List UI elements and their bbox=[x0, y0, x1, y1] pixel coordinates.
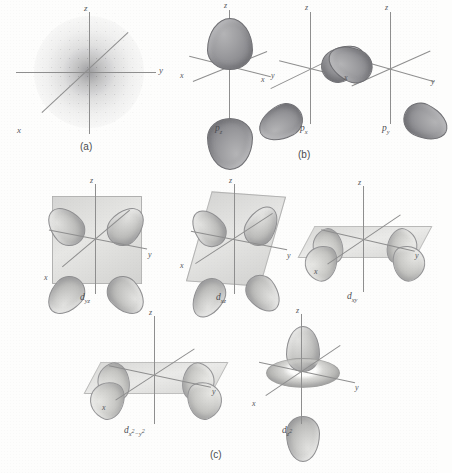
axis-label-x: x bbox=[102, 404, 106, 412]
axis-label-y: y bbox=[431, 78, 435, 86]
axis-label-y: y bbox=[287, 252, 291, 260]
axis-label-z: z bbox=[358, 179, 361, 187]
axis-label-x: x bbox=[180, 72, 184, 80]
axis-line-z bbox=[154, 316, 155, 424]
orbital-label-dxz: dxz bbox=[216, 293, 226, 304]
axis-label-y: y bbox=[355, 384, 359, 392]
axis-label-x: x bbox=[252, 400, 256, 408]
axis-label-z: z bbox=[90, 177, 93, 185]
axis-label-z: z bbox=[229, 177, 232, 185]
panel-label-c: (c) bbox=[210, 450, 222, 460]
panel-label-b: (b) bbox=[298, 150, 310, 160]
dz2-torus-ring bbox=[266, 358, 340, 388]
axis-line-z bbox=[89, 12, 90, 134]
axis-label-y: y bbox=[415, 252, 419, 260]
orbital-label-pz: pz bbox=[215, 124, 222, 135]
orbital-s-cell: z y x bbox=[8, 8, 178, 138]
orbital-label-dx2y2: dx2−y2 bbox=[124, 426, 145, 437]
axis-line-z bbox=[301, 314, 302, 424]
orbital-label-dz2: dz2 bbox=[282, 426, 292, 437]
orbital-label-py: py bbox=[382, 124, 390, 135]
axis-label-x: x bbox=[180, 262, 184, 270]
orbital-dxy-cell: z y x bbox=[298, 186, 434, 292]
axis-label-x: x bbox=[314, 268, 318, 276]
pz-lobe-upper bbox=[207, 18, 253, 70]
axis-label-z: z bbox=[224, 2, 227, 10]
axis-label-y: y bbox=[159, 66, 163, 75]
orbital-label-dxy: dxy bbox=[347, 292, 357, 303]
orbital-dxz-cell: z y x bbox=[168, 184, 306, 294]
orbital-label-dyz: dyz bbox=[80, 293, 90, 304]
axis-label-z: z bbox=[385, 4, 388, 12]
orbital-dz2-cell: z y x bbox=[238, 314, 372, 424]
axis-label-z: z bbox=[84, 4, 88, 13]
axis-label-y: y bbox=[212, 388, 216, 396]
axis-label-y: y bbox=[148, 251, 152, 259]
axis-label-x: x bbox=[17, 126, 21, 135]
py-lobe-right bbox=[398, 97, 452, 148]
axis-label-x: x bbox=[44, 274, 48, 282]
orbital-dx2y2-cell: z y x bbox=[84, 316, 232, 424]
orbital-label-px: px bbox=[300, 124, 308, 135]
panel-label-a: (a) bbox=[80, 142, 92, 152]
orbital-py-cell: z y x bbox=[346, 12, 438, 122]
orbital-dyz-cell: z y x bbox=[28, 184, 168, 294]
axis-label-z: z bbox=[296, 307, 299, 315]
axis-label-z: z bbox=[149, 309, 152, 317]
axis-label-z: z bbox=[305, 4, 308, 12]
pz-lobe-lower bbox=[207, 118, 253, 170]
dz2-lobe-lower bbox=[286, 416, 320, 462]
axis-label-x: x bbox=[261, 76, 265, 84]
axis-label-x: x bbox=[344, 74, 348, 82]
